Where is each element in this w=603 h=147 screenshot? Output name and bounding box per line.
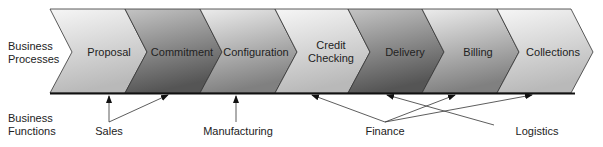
process-label-collections: Collections bbox=[526, 46, 580, 59]
row-label-business-functions: Business Functions bbox=[8, 112, 56, 138]
row-label-business-processes: Business Processes bbox=[8, 40, 59, 66]
process-label-line: Credit bbox=[308, 39, 354, 52]
row-label-line: Functions bbox=[8, 125, 56, 138]
function-label-manufacturing: Manufacturing bbox=[203, 125, 273, 138]
row-label-line: Processes bbox=[8, 53, 59, 66]
finance-arrows bbox=[312, 95, 532, 122]
process-label-proposal: Proposal bbox=[87, 46, 130, 59]
process-label-credit-checking: Credit Checking bbox=[308, 39, 354, 65]
function-label-finance: Finance bbox=[365, 125, 404, 138]
process-label-commitment: Commitment bbox=[151, 46, 213, 59]
process-label-line: Checking bbox=[308, 52, 354, 65]
row-label-line: Business bbox=[8, 112, 56, 125]
process-label-billing: Billing bbox=[463, 46, 492, 59]
process-diagram bbox=[0, 0, 603, 147]
logistics-arrows bbox=[387, 95, 494, 125]
process-label-configuration: Configuration bbox=[223, 46, 288, 59]
sales-arrows bbox=[109, 95, 168, 122]
process-label-delivery: Delivery bbox=[385, 46, 425, 59]
function-label-sales: Sales bbox=[95, 125, 123, 138]
row-label-line: Business bbox=[8, 40, 59, 53]
function-label-logistics: Logistics bbox=[516, 125, 559, 138]
